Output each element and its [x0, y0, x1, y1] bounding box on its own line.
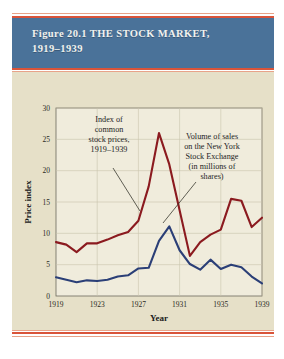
y-tick-label: 10 — [43, 229, 51, 238]
x-tick-label: 1919 — [49, 300, 64, 309]
annotation-line: (in millions of — [189, 162, 236, 171]
x-axis-ticks: 191919231927193119351939 — [49, 300, 270, 309]
annotation-line: Index of — [95, 115, 123, 124]
annotation-line: shares) — [200, 172, 223, 181]
y-tick-label: 15 — [43, 198, 51, 207]
annotation-line: on the New York — [184, 142, 240, 151]
annotation-line: Stock Exchange — [186, 152, 239, 161]
y-axis-ticks: 051015202530 — [43, 104, 51, 301]
y-tick-label: 5 — [46, 260, 50, 269]
x-tick-label: 1935 — [213, 300, 228, 309]
annotation-line: stock prices, — [89, 135, 130, 144]
figure-panel: Figure 20.1 THE STOCK MARKET, 1919–1939 … — [0, 0, 284, 359]
x-tick-label: 1931 — [172, 300, 187, 309]
y-tick-label: 30 — [43, 104, 51, 113]
x-axis-title: Year — [150, 313, 168, 323]
annotation-line: Volume of sales — [186, 132, 238, 141]
x-tick-label: 1939 — [255, 300, 270, 309]
x-tick-label: 1923 — [90, 300, 105, 309]
y-tick-label: 20 — [43, 166, 51, 175]
annotation-line: 1919–1939 — [91, 145, 128, 154]
y-axis-title: Price index — [23, 180, 33, 224]
stock-market-line-chart: 051015202530 191919231927193119351939 In… — [0, 0, 284, 359]
y-tick-label: 25 — [43, 135, 51, 144]
x-tick-label: 1927 — [131, 300, 146, 309]
annotation-line: common — [95, 125, 124, 134]
